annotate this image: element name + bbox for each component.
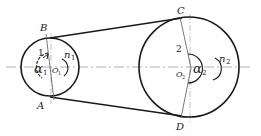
label-n2-sub: 2	[226, 58, 230, 66]
label-B: B	[39, 22, 47, 33]
label-n2: n	[219, 53, 225, 64]
label-A: A	[36, 100, 44, 111]
label-alpha1: α	[34, 61, 43, 76]
belt-upper-span	[50, 18, 182, 38]
label-O1-sub: 1	[58, 70, 61, 76]
label-O2-sub: 2	[182, 74, 185, 80]
belt-lower-span	[50, 97, 182, 116]
label-alpha2-sub: 2	[202, 69, 206, 77]
label-pulley-2: 2	[176, 44, 182, 54]
label-n1: n	[64, 49, 70, 60]
label-C: C	[177, 5, 185, 16]
belt-drive-diagram: B A 1 α 1 O 1 n 1 C D 2 O 2 α 2 n 2	[0, 0, 261, 136]
n1-rotation-arc	[62, 59, 68, 76]
label-pulley-1: 1	[38, 48, 44, 58]
label-alpha1-sub: 1	[43, 69, 47, 77]
chord-CO2	[180, 17, 191, 68]
label-D: D	[175, 121, 184, 132]
label-n1-sub: 1	[71, 54, 75, 62]
label-alpha2: α	[193, 61, 202, 76]
